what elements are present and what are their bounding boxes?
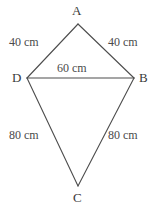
vertex-label-d: D bbox=[12, 71, 21, 84]
side-length-label-dc: 80 cm bbox=[9, 129, 39, 141]
diagonal-length-label-db: 60 cm bbox=[57, 62, 87, 74]
kite-drawing bbox=[0, 0, 157, 211]
vertex-label-b: B bbox=[139, 71, 148, 84]
vertex-label-c: C bbox=[73, 191, 82, 204]
side-length-label-ab: 40 cm bbox=[108, 36, 138, 48]
geometry-figure: A B C D 40 cm 40 cm 60 cm 80 cm 80 cm bbox=[0, 0, 157, 211]
side-length-label-bc: 80 cm bbox=[108, 129, 138, 141]
side-length-label-ad: 40 cm bbox=[9, 36, 39, 48]
vertex-label-a: A bbox=[72, 4, 81, 17]
